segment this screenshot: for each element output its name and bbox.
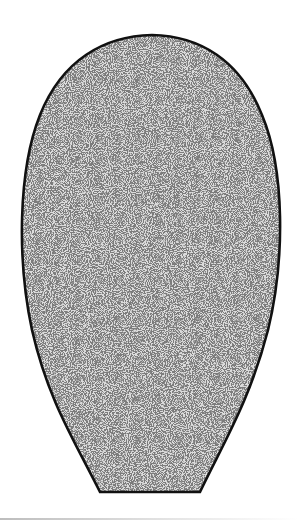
stipple-texture [0, 0, 298, 520]
stippled-shape-figure: Stippled rounded-top shape with flat tru… [0, 0, 298, 520]
stippled-shape-svg [0, 0, 298, 520]
